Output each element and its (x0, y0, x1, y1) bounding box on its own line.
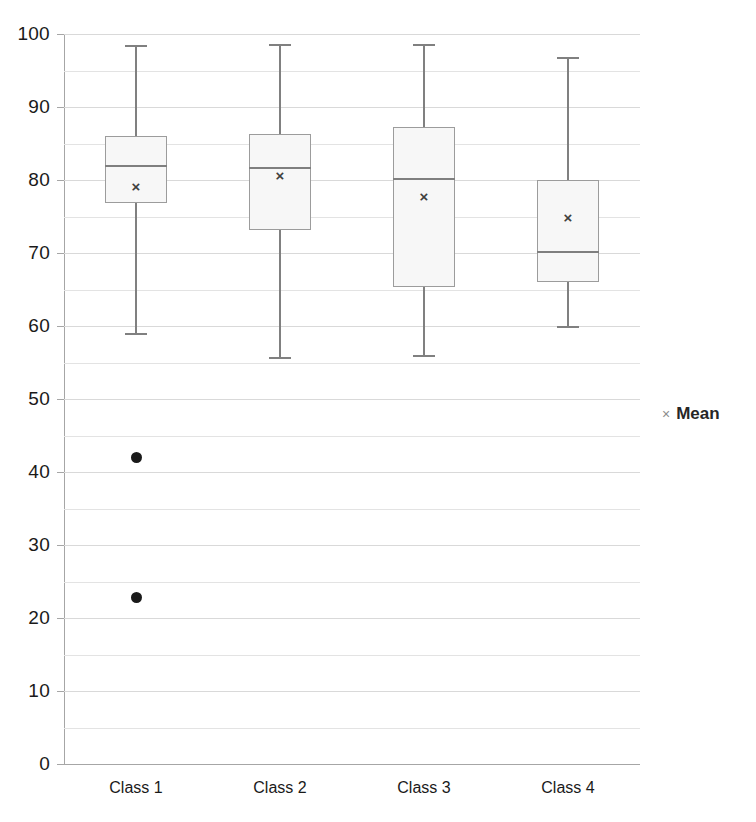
mean-marker-icon: × (662, 407, 670, 421)
gridline (64, 728, 640, 729)
gridline (64, 436, 640, 437)
y-axis-tick-label: 90 (0, 96, 50, 118)
y-axis-tick-label: 70 (0, 242, 50, 264)
lower-whisker (135, 203, 137, 333)
gridline (64, 691, 640, 692)
y-axis-tick-label: 10 (0, 680, 50, 702)
gridline (64, 545, 640, 546)
median-line (105, 165, 167, 167)
lower-whisker-cap (413, 355, 435, 357)
y-axis-tick-label: 80 (0, 169, 50, 191)
gridline (64, 326, 640, 327)
y-axis-tick-label: 50 (0, 388, 50, 410)
y-axis-tick-mark (57, 545, 64, 546)
gridline (64, 618, 640, 619)
box-plot-chart: 0102030405060708090100 ×××× Class 1Class… (0, 0, 756, 822)
y-axis-tick-label: 0 (0, 753, 50, 775)
plot-area: ×××× (64, 34, 640, 764)
y-axis-tick-mark (57, 326, 64, 327)
outlier-point[interactable] (131, 452, 142, 463)
upper-whisker-cap (269, 44, 291, 46)
gridline (64, 399, 640, 400)
gridline (64, 34, 640, 35)
upper-whisker (423, 44, 425, 127)
y-axis-tick-label: 30 (0, 534, 50, 556)
x-axis-tick-label: Class 2 (210, 779, 350, 797)
box-iqr[interactable] (537, 180, 599, 282)
y-axis-tick-mark (57, 34, 64, 35)
upper-whisker-cap (557, 57, 579, 59)
upper-whisker (279, 44, 281, 134)
gridline (64, 509, 640, 510)
upper-whisker (135, 45, 137, 136)
gridline (64, 655, 640, 656)
legend: × Mean (662, 404, 720, 424)
gridline (64, 472, 640, 473)
lower-whisker-cap (557, 326, 579, 328)
outlier-point[interactable] (131, 592, 142, 603)
gridline (64, 290, 640, 291)
y-axis-tick-label: 20 (0, 607, 50, 629)
y-axis-tick-mark (57, 691, 64, 692)
lower-whisker (423, 287, 425, 356)
y-axis-tick-label: 40 (0, 461, 50, 483)
y-axis-tick-mark (57, 618, 64, 619)
box-iqr[interactable] (393, 127, 455, 286)
gridline (64, 764, 640, 765)
y-axis-tick-mark (57, 472, 64, 473)
y-axis-tick-mark (57, 107, 64, 108)
x-axis-tick-label: Class 1 (66, 779, 206, 797)
upper-whisker (567, 57, 569, 180)
upper-whisker-cap (125, 45, 147, 47)
y-axis-tick-label: 60 (0, 315, 50, 337)
legend-label-mean: Mean (676, 404, 719, 424)
y-axis-tick-mark (57, 253, 64, 254)
gridline (64, 71, 640, 72)
gridline (64, 107, 640, 108)
lower-whisker-cap (125, 333, 147, 335)
lower-whisker-cap (269, 357, 291, 359)
y-axis-tick-mark (57, 764, 64, 765)
y-axis-tick-mark (57, 399, 64, 400)
upper-whisker-cap (413, 44, 435, 46)
y-axis-tick-label: 100 (0, 23, 50, 45)
y-axis-labels: 0102030405060708090100 (0, 0, 50, 822)
median-line (393, 178, 455, 180)
lower-whisker (567, 282, 569, 326)
gridline (64, 582, 640, 583)
x-axis-tick-label: Class 4 (498, 779, 638, 797)
lower-whisker (279, 230, 281, 357)
y-axis-tick-mark (57, 180, 64, 181)
x-axis-tick-label: Class 3 (354, 779, 494, 797)
median-line (537, 251, 599, 253)
gridline (64, 363, 640, 364)
